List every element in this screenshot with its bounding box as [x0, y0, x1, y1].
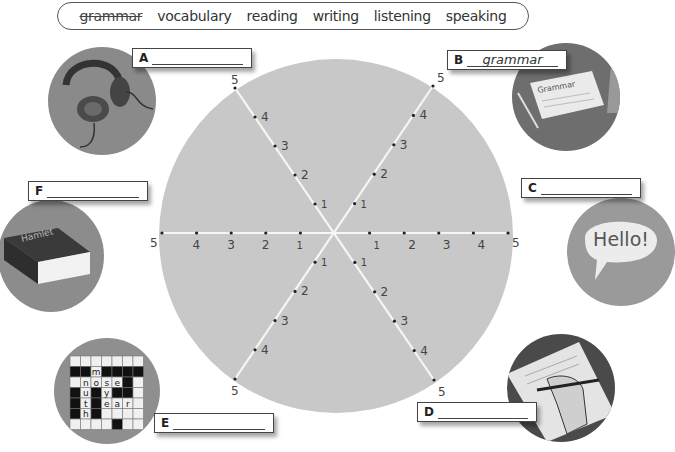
tick-mark	[253, 348, 256, 351]
speech-bubble-icon: Hello!	[567, 198, 675, 306]
tick-label: 4	[420, 344, 428, 358]
picture-hamlet-book: Hamlet	[0, 200, 104, 312]
tick-label: 3	[443, 238, 451, 252]
label-box-c: C	[521, 178, 641, 198]
label-letter: D	[424, 405, 434, 419]
tick-label: 5	[437, 71, 445, 85]
tick-mark	[273, 319, 276, 322]
svg-text:e: e	[104, 399, 110, 409]
tick-mark	[233, 377, 236, 380]
tick-label: 2	[301, 284, 309, 298]
svg-text:u: u	[83, 388, 89, 398]
answer-blank-d[interactable]	[438, 406, 528, 419]
tick-label: 5	[231, 384, 239, 398]
label-letter: C	[528, 181, 537, 195]
tick-mark	[413, 349, 416, 352]
tick-label: 1	[374, 240, 380, 251]
bubble-text: Hello!	[593, 228, 649, 250]
label-box-a: A	[132, 48, 252, 68]
tick-label: 5	[150, 236, 158, 250]
tick-mark	[253, 115, 256, 118]
svg-text:h: h	[83, 409, 89, 419]
tick-mark	[313, 261, 316, 264]
tick-label: 2	[408, 238, 416, 252]
tick-mark	[373, 290, 376, 293]
label-letter: F	[35, 184, 43, 198]
tick-label: 4	[193, 238, 201, 252]
svg-text:o: o	[93, 378, 99, 388]
tick-label: 4	[477, 238, 485, 252]
svg-text:a: a	[114, 399, 120, 409]
tick-label: 5	[231, 73, 239, 87]
tick-label: 2	[380, 167, 388, 181]
tick-label: 3	[281, 139, 289, 153]
picture-crossword: mnoseuytearh	[54, 338, 160, 444]
svg-text:m: m	[92, 367, 101, 377]
hand-writing-icon	[507, 334, 615, 442]
tick-mark	[412, 114, 415, 117]
tick-mark	[368, 231, 371, 234]
tick-mark	[195, 231, 198, 234]
tick-label: 3	[281, 314, 289, 328]
tick-label: 3	[400, 138, 408, 152]
tick-mark	[353, 261, 356, 264]
answer-blank-e[interactable]	[173, 417, 265, 430]
tick-label: 4	[261, 110, 269, 124]
label-letter: E	[161, 416, 169, 430]
tick-label: 1	[361, 199, 367, 210]
crossword-icon: mnoseuytearh	[54, 338, 160, 444]
tick-label: 1	[321, 199, 327, 210]
tick-mark	[264, 231, 267, 234]
tick-label: 2	[301, 168, 309, 182]
tick-label: 2	[262, 238, 270, 252]
tick-label: 3	[227, 238, 235, 252]
tick-mark	[160, 231, 163, 234]
tick-mark	[437, 231, 440, 234]
tick-label: 3	[400, 314, 408, 328]
label-letter: B	[454, 53, 463, 67]
tick-mark	[230, 231, 233, 234]
tick-label: 4	[419, 108, 427, 122]
tick-mark	[293, 173, 296, 176]
tick-mark	[403, 231, 406, 234]
tick-mark	[293, 290, 296, 293]
label-box-f: F	[28, 181, 148, 201]
tick-mark	[353, 202, 356, 205]
tick-mark	[299, 231, 302, 234]
tick-label: 2	[381, 285, 389, 299]
answer-blank-b[interactable]: grammar	[467, 54, 558, 67]
tick-mark	[373, 173, 376, 176]
svg-text:e: e	[114, 378, 120, 388]
label-box-b: B grammar	[447, 50, 567, 70]
label-box-e: E	[154, 413, 274, 433]
svg-text:y: y	[104, 388, 110, 398]
tick-label: 1	[296, 240, 302, 251]
answer-blank-c[interactable]	[541, 182, 632, 195]
tick-label: 4	[261, 343, 269, 357]
tick-label: 1	[321, 257, 327, 268]
tick-mark	[393, 320, 396, 323]
svg-text:r: r	[126, 399, 130, 409]
svg-text:t: t	[84, 399, 88, 409]
tick-label: 5	[512, 236, 520, 250]
tick-label: 5	[438, 385, 446, 399]
hamlet-book-icon: Hamlet	[0, 200, 104, 312]
label-box-d: D	[417, 402, 537, 422]
tick-mark	[313, 202, 316, 205]
tick-mark	[392, 143, 395, 146]
tick-mark	[472, 231, 475, 234]
tick-label: 1	[361, 257, 367, 268]
label-letter: A	[139, 51, 148, 65]
tick-mark	[431, 84, 434, 87]
picture-speech-bubble: Hello!	[567, 198, 675, 306]
svg-text:s: s	[104, 378, 109, 388]
tick-mark	[432, 378, 435, 381]
tick-mark	[506, 231, 509, 234]
answer-blank-a[interactable]	[152, 52, 243, 65]
svg-text:n: n	[83, 378, 89, 388]
answer-blank-f[interactable]	[47, 185, 139, 198]
tick-mark	[273, 144, 276, 147]
picture-hand-writing	[507, 334, 615, 442]
